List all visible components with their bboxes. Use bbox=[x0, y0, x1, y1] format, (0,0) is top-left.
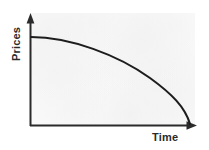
arrow-right-icon bbox=[187, 121, 198, 129]
y-axis-label: Prices bbox=[10, 27, 22, 61]
price-vs-time-chart-figure: Prices Time bbox=[0, 0, 209, 150]
price-curve-series bbox=[31, 37, 190, 124]
chart-plot-svg bbox=[0, 0, 209, 150]
arrow-up-icon bbox=[27, 13, 35, 24]
x-axis-label: Time bbox=[152, 131, 178, 143]
